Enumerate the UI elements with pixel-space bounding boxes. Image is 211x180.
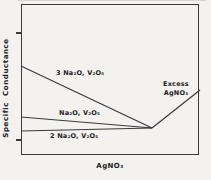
- annotation-excess-agno3: Excess AgNO₃: [155, 80, 197, 97]
- conductometric-titration-figure: 3 Na₂O, V₂O₅ Na₂O, V₂O₅ 2 Na₂O, V₂O₅ Exc…: [0, 0, 211, 180]
- curve-label-3na2o-v2o5: 3 Na₂O, V₂O₅: [56, 69, 104, 77]
- annotation-excess-line1: Excess: [155, 80, 197, 89]
- curve-label-na2o-v2o5: Na₂O, V₂O₅: [59, 109, 100, 117]
- x-axis-title: AgNO₃: [21, 162, 199, 170]
- curve-label-2na2o-v2o5: 2 Na₂O, V₂O₅: [50, 132, 98, 140]
- y-axis-title: Specific Conductance: [2, 33, 12, 143]
- annotation-excess-line2: AgNO₃: [155, 89, 197, 98]
